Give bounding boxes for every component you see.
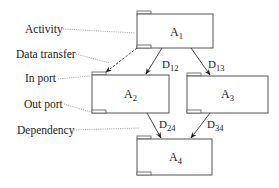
data-transfer-arrow[interactable] [106,48,137,72]
leader-dependency [74,128,140,130]
dependency-label-d34: D34 [207,118,224,133]
label-in-port: In port [25,72,57,85]
activity-diagram: Activity Data transfer In port Out port … [0,0,279,188]
dependency-label-d24: D24 [159,118,176,133]
dependency-label-d13: D13 [208,58,224,73]
activity-a1[interactable]: A1 [137,11,213,48]
dependency-label-d12: D12 [162,58,178,73]
leader-out-port [64,104,91,112]
activity-a2[interactable]: A2 [92,72,169,113]
leader-data-transfer [76,54,110,63]
activity-a3[interactable]: A3 [187,73,268,113]
label-data-transfer: Data transfer [16,48,76,60]
out-port-a4 [137,172,151,175]
out-port-a2 [92,110,106,113]
activity-a4[interactable]: A4 [137,136,212,175]
label-dependency: Dependency [17,124,75,137]
leader-activity [63,29,135,33]
out-port-a3 [187,110,201,113]
leader-in-port [58,76,90,79]
label-activity: Activity [25,23,63,36]
label-out-port: Out port [24,98,63,111]
dependency-arrow-d12[interactable] [146,48,162,74]
out-port-a1 [137,45,151,48]
